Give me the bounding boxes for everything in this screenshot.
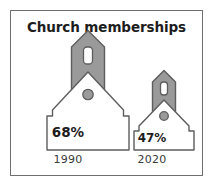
rose-window-2020 [160, 112, 169, 121]
tower-window-1990 [84, 47, 93, 64]
tower-window-2020 [161, 82, 168, 95]
church-chart-svg [10, 10, 203, 176]
category-label-1990: 1990 [22, 153, 114, 167]
infographic-card: Church memberships 68% 47% 1990 2020 [0, 0, 213, 186]
value-label-2020: 47% [112, 131, 192, 146]
category-label-2020: 2020 [112, 153, 192, 167]
value-label-1990: 68% [22, 125, 114, 140]
rose-window-1990 [83, 89, 93, 99]
